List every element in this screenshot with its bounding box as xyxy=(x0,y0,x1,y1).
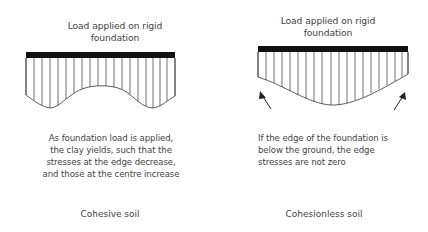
description-line: If the edge of the foundation is xyxy=(258,132,418,144)
cohesive-stress-diagram xyxy=(0,0,214,140)
rigid-foundation xyxy=(258,46,408,52)
cohesive-description: As foundation load is applied, the clay … xyxy=(36,132,186,180)
description-line: below the ground, the edge xyxy=(258,144,418,156)
cohesionless-soil-caption: Cohesionless soil xyxy=(264,208,384,220)
cohesive-soil-caption: Cohesive soil xyxy=(50,208,170,220)
cohesionless-soil-panel: Load applied on rigid foundation xyxy=(214,0,428,232)
cohesive-soil-panel: Load applied on rigid foundation xyxy=(0,0,214,232)
description-line: the clay yields, such that the xyxy=(36,144,186,156)
cohesionless-stress-diagram xyxy=(214,0,428,140)
stress-hatching xyxy=(26,58,175,108)
cohesionless-description: If the edge of the foundation is below t… xyxy=(258,132,418,168)
description-line: As foundation load is applied, xyxy=(36,132,186,144)
stress-envelope xyxy=(258,52,408,105)
edge-stress-arrow-left xyxy=(259,91,271,109)
description-line: stresses at the edge decrease, xyxy=(36,156,186,168)
edge-stress-arrow-right xyxy=(394,92,406,110)
rigid-foundation xyxy=(26,52,175,58)
description-line: and those at the centre increase xyxy=(36,168,186,180)
description-line: stresses are not zero xyxy=(258,156,418,168)
stress-hatching xyxy=(258,52,408,105)
